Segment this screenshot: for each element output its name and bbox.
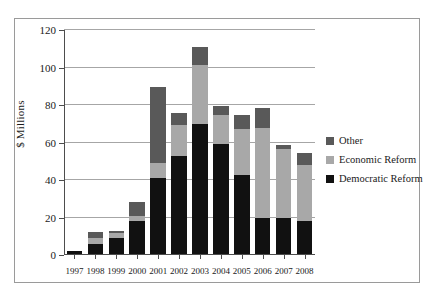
gridline: [64, 67, 315, 68]
bar-segment-democratic-reform: [213, 144, 228, 254]
bar-segment-economic-reform: [150, 163, 165, 178]
x-tick-mark: [158, 255, 159, 259]
bar-1999: [109, 231, 124, 254]
bar-segment-economic-reform: [297, 165, 312, 221]
legend-swatch-icon: [326, 137, 334, 145]
gridline: [64, 104, 315, 105]
bar-segment-economic-reform: [109, 233, 124, 238]
y-axis-label: $ Millions: [14, 84, 26, 164]
bar-segment-economic-reform: [171, 125, 186, 156]
legend-item-economic-reform: Economic Reform: [326, 150, 426, 169]
x-tick-label-2008: 2008: [296, 266, 314, 276]
y-tick-mark: [59, 68, 64, 69]
bar-2006: [255, 108, 270, 254]
x-tick-label-1999: 1999: [107, 266, 125, 276]
bar-segment-other: [276, 145, 291, 149]
bar-segment-democratic-reform: [192, 124, 207, 254]
y-tick-mark: [59, 143, 64, 144]
y-tick-mark: [59, 180, 64, 181]
y-tick-mark: [59, 255, 64, 256]
x-tick-label-2003: 2003: [191, 266, 209, 276]
x-tick-label-1997: 1997: [65, 266, 83, 276]
x-tick-label-2004: 2004: [212, 266, 230, 276]
bar-segment-other: [297, 153, 312, 165]
legend-label: Other: [339, 135, 363, 146]
bar-segment-other: [129, 202, 144, 215]
bar-segment-other: [213, 106, 228, 115]
x-tick-label-2006: 2006: [254, 266, 272, 276]
x-tick-label-2001: 2001: [149, 266, 167, 276]
chart-figure: $ Millions 020406080100120 1997199819992…: [0, 0, 435, 296]
bar-segment-other: [109, 231, 124, 234]
x-tick-label-1998: 1998: [86, 266, 104, 276]
legend-item-other: Other: [326, 131, 426, 150]
y-tick-label: 100: [40, 62, 57, 73]
bar-segment-other: [88, 232, 103, 238]
x-tick-mark: [179, 255, 180, 259]
y-tick-mark: [59, 218, 64, 219]
gridline: [64, 142, 315, 143]
legend-swatch-icon: [326, 156, 334, 164]
bar-segment-democratic-reform: [129, 221, 144, 254]
bar-segment-democratic-reform: [109, 238, 124, 254]
bar-segment-other: [234, 115, 249, 129]
y-axis-line: [64, 30, 65, 255]
bar-segment-democratic-reform: [276, 218, 291, 254]
bar-2000: [129, 202, 144, 254]
bar-segment-economic-reform: [234, 129, 249, 175]
bar-segment-economic-reform: [213, 115, 228, 144]
bar-segment-democratic-reform: [150, 178, 165, 254]
x-tick-mark: [200, 255, 201, 259]
gridline: [64, 29, 315, 30]
bar-segment-democratic-reform: [297, 221, 312, 254]
bar-segment-other: [255, 108, 270, 129]
bar-2003: [192, 47, 207, 254]
x-axis-line: [64, 254, 315, 255]
x-tick-mark: [116, 255, 117, 259]
bar-segment-economic-reform: [129, 216, 144, 222]
x-tick-mark: [263, 255, 264, 259]
bar-segment-democratic-reform: [88, 244, 103, 254]
bar-segment-economic-reform: [276, 149, 291, 218]
legend-item-democratic-reform: Democratic Reform: [326, 169, 426, 188]
y-tick-label: 0: [51, 250, 57, 261]
bar-segment-other: [192, 47, 207, 65]
y-tick-mark: [59, 30, 64, 31]
x-tick-label-2005: 2005: [233, 266, 251, 276]
bar-2004: [213, 106, 228, 254]
x-tick-mark: [95, 255, 96, 259]
y-tick-label: 40: [45, 175, 56, 186]
x-tick-label-2000: 2000: [128, 266, 146, 276]
y-tick-mark: [59, 105, 64, 106]
y-tick-label: 120: [40, 25, 57, 36]
bar-2001: [150, 87, 165, 254]
legend-swatch-icon: [326, 175, 334, 183]
bar-segment-democratic-reform: [255, 218, 270, 254]
x-tick-label-2007: 2007: [275, 266, 293, 276]
bar-1998: [88, 232, 103, 254]
bar-segment-other: [150, 87, 165, 163]
legend-label: Economic Reform: [339, 154, 416, 165]
bar-2008: [297, 153, 312, 254]
bar-segment-economic-reform: [88, 238, 103, 244]
x-tick-mark: [305, 255, 306, 259]
x-tick-mark: [284, 255, 285, 259]
bar-segment-other: [171, 113, 186, 124]
x-tick-mark: [74, 255, 75, 259]
chart-legend: OtherEconomic ReformDemocratic Reform: [326, 131, 426, 188]
bar-segment-democratic-reform: [171, 156, 186, 254]
bar-2002: [171, 113, 186, 254]
bar-2007: [276, 145, 291, 254]
y-tick-label: 20: [45, 212, 56, 223]
bar-2005: [234, 115, 249, 254]
x-tick-label-2002: 2002: [170, 266, 188, 276]
x-tick-mark: [242, 255, 243, 259]
bar-segment-economic-reform: [255, 128, 270, 218]
x-tick-mark: [221, 255, 222, 259]
bar-segment-democratic-reform: [234, 175, 249, 254]
x-tick-mark: [137, 255, 138, 259]
bar-segment-economic-reform: [192, 65, 207, 124]
y-tick-label: 80: [45, 100, 56, 111]
y-tick-label: 60: [45, 137, 56, 148]
plot-area: 020406080100120 199719981999200020012002…: [64, 30, 315, 255]
